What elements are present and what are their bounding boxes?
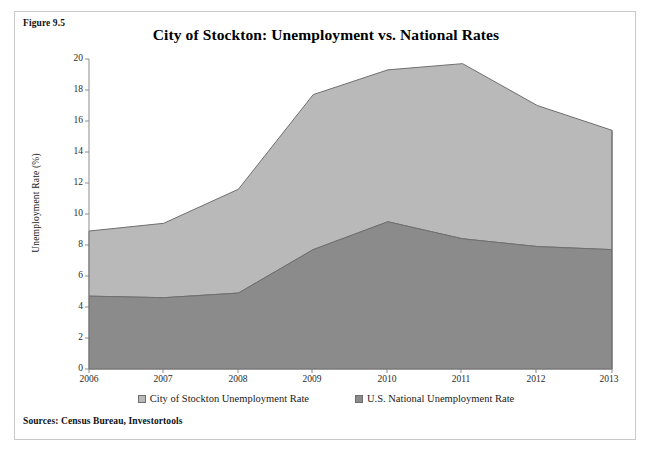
- x-axis-ticks: [89, 369, 612, 373]
- stacked-area-chart: [15, 12, 637, 441]
- legend-entry-national[interactable]: U.S. National Unemployment Rate: [355, 393, 514, 404]
- series-layer: [89, 64, 612, 369]
- chart-legend: City of Stockton Unemployment Rate U.S. …: [15, 393, 637, 404]
- source-note: Sources: Census Bureau, Investortools: [23, 416, 183, 426]
- legend-swatch-stockton: [138, 395, 146, 403]
- legend-label-national: U.S. National Unemployment Rate: [367, 393, 514, 404]
- plot-area: Unemployment Rate (%) 0 2 4 6 8 10 12 14…: [15, 12, 637, 441]
- figure-panel: Figure 9.5 City of Stockton: Unemploymen…: [14, 11, 636, 440]
- legend-label-stockton: City of Stockton Unemployment Rate: [150, 393, 309, 404]
- legend-swatch-national: [355, 395, 363, 403]
- legend-entry-stockton[interactable]: City of Stockton Unemployment Rate: [138, 393, 309, 404]
- y-axis-ticks: [85, 59, 89, 369]
